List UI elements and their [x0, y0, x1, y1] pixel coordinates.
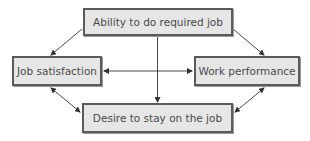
arrow-satisfaction-desire: [51, 88, 80, 112]
node-label: Ability to do required job: [93, 16, 223, 28]
arrow-performance-desire: [235, 88, 264, 112]
node-job-satisfaction: Job satisfaction: [12, 56, 102, 86]
node-desire-to-stay-on-the-job: Desire to stay on the job: [82, 103, 233, 133]
node-label: Work performance: [198, 65, 295, 77]
node-ability-to-do-required-job: Ability to do required job: [83, 8, 233, 36]
node-work-performance: Work performance: [194, 56, 300, 86]
node-label: Desire to stay on the job: [93, 112, 222, 124]
node-label: Job satisfaction: [17, 65, 97, 77]
arrow-ability-to-satisfaction: [51, 29, 82, 55]
arrow-ability-to-performance: [233, 29, 264, 55]
